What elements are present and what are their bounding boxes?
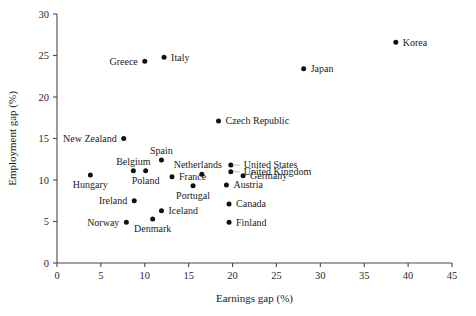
x-tick-label: 10 bbox=[140, 270, 151, 281]
data-point-marker bbox=[159, 208, 164, 213]
data-point-label: Canada bbox=[236, 198, 267, 209]
x-tick-label: 25 bbox=[271, 270, 282, 281]
data-point-marker bbox=[227, 202, 232, 207]
data-point-label: Italy bbox=[171, 52, 189, 63]
chart-canvas: 051015202530051015202530354045Earnings g… bbox=[0, 0, 476, 316]
data-point-marker bbox=[393, 40, 398, 45]
data-point-marker bbox=[224, 182, 229, 187]
y-tick-label: 10 bbox=[39, 175, 50, 186]
x-tick-label: 15 bbox=[183, 270, 194, 281]
data-point-label: Spain bbox=[150, 145, 173, 156]
data-point-marker bbox=[241, 173, 246, 178]
y-tick-label: 20 bbox=[39, 92, 50, 103]
data-point-label: Greece bbox=[109, 56, 138, 67]
data-point-label: New Zealand bbox=[63, 133, 117, 144]
data-point-label: Poland bbox=[132, 175, 160, 186]
data-point-marker bbox=[88, 173, 93, 178]
y-tick-label: 15 bbox=[39, 133, 50, 144]
data-point-marker bbox=[162, 55, 167, 60]
data-point-label: Portugal bbox=[176, 190, 210, 201]
data-point-label: France bbox=[179, 171, 207, 182]
data-point-marker bbox=[159, 158, 164, 163]
data-point-marker bbox=[131, 168, 136, 173]
data-point-label: Hungary bbox=[73, 179, 108, 190]
data-point-marker bbox=[124, 220, 129, 225]
y-tick-label: 5 bbox=[44, 216, 49, 227]
data-point-marker bbox=[142, 59, 147, 64]
data-point-marker bbox=[121, 136, 126, 141]
x-tick-label: 0 bbox=[54, 270, 59, 281]
data-point-marker bbox=[228, 169, 233, 174]
data-point-label: Japan bbox=[311, 63, 334, 74]
data-point-marker bbox=[132, 198, 137, 203]
x-tick-label: 40 bbox=[403, 270, 414, 281]
x-tick-label: 20 bbox=[227, 270, 238, 281]
x-axis-title: Earnings gap (%) bbox=[216, 292, 293, 305]
data-point-label: Austria bbox=[233, 179, 263, 190]
y-axis-title: Employment gap (%) bbox=[6, 91, 19, 186]
x-tick-label: 45 bbox=[447, 270, 458, 281]
y-tick-label: 0 bbox=[44, 258, 49, 269]
data-point-label: Korea bbox=[403, 37, 428, 48]
data-point-marker bbox=[169, 174, 174, 179]
y-tick-label: 25 bbox=[39, 50, 50, 61]
data-point-marker bbox=[143, 168, 148, 173]
data-point-label: Finland bbox=[236, 217, 267, 228]
data-point-label: Norway bbox=[87, 217, 119, 228]
y-tick-label: 30 bbox=[39, 9, 50, 20]
scatter-plot-figure: 051015202530051015202530354045Earnings g… bbox=[0, 0, 476, 316]
x-tick-label: 5 bbox=[98, 270, 103, 281]
data-point-marker bbox=[216, 119, 221, 124]
data-point-label: Ireland bbox=[99, 195, 127, 206]
x-tick-label: 30 bbox=[315, 270, 326, 281]
data-point-label: Netherlands bbox=[174, 159, 222, 170]
data-point-marker bbox=[301, 66, 306, 71]
data-point-marker bbox=[228, 163, 233, 168]
data-point-marker bbox=[150, 217, 155, 222]
data-point-label: Iceland bbox=[168, 205, 197, 216]
data-point-label: Denmark bbox=[134, 223, 171, 234]
data-point-marker bbox=[227, 220, 232, 225]
data-point-marker bbox=[191, 183, 196, 188]
data-point-label: Czech Republic bbox=[226, 115, 290, 126]
x-tick-label: 35 bbox=[359, 270, 370, 281]
data-point-label: Belgium bbox=[116, 156, 151, 167]
